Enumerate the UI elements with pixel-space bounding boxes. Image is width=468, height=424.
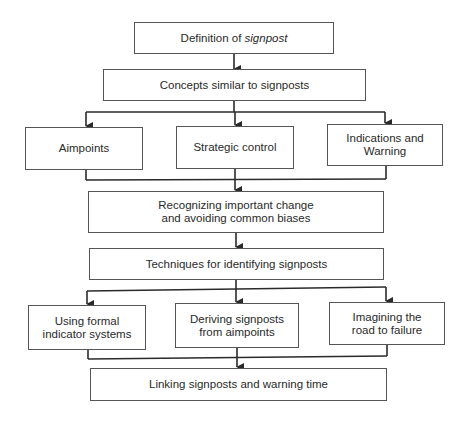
- node-definition-italic-term: signpost: [245, 32, 288, 44]
- node-concepts: Concepts similar to signposts: [103, 69, 366, 101]
- node-definition-text: Definition of signpost: [181, 32, 288, 45]
- node-formal-indicators: Using formal indicator systems: [28, 305, 146, 350]
- node-deriving-signposts-label: Deriving signposts from aimpoints: [190, 313, 284, 339]
- node-indications-warning: Indications and Warning: [327, 124, 443, 166]
- node-formal-indicators-label: Using formal indicator systems: [39, 315, 135, 341]
- node-concepts-label: Concepts similar to signposts: [160, 79, 310, 92]
- node-strategic-control-label: Strategic control: [193, 141, 276, 154]
- node-imagining-failure-label: Imagining the road to failure: [348, 311, 426, 337]
- node-definition-label: Definition of: [181, 32, 245, 44]
- node-aimpoints-label: Aimpoints: [59, 142, 110, 155]
- node-recognizing-change: Recognizing important change and avoidin…: [88, 191, 384, 233]
- node-indications-warning-label: Indications and Warning: [342, 132, 428, 158]
- node-recognizing-change-label: Recognizing important change and avoidin…: [149, 199, 323, 225]
- node-definition: Definition of signpost: [134, 22, 334, 54]
- node-deriving-signposts: Deriving signposts from aimpoints: [175, 303, 299, 348]
- connector-merge-1: [86, 179, 386, 180]
- node-linking-warning: Linking signposts and warning time: [90, 368, 387, 401]
- node-strategic-control: Strategic control: [176, 126, 294, 169]
- node-techniques: Techniques for identifying signposts: [89, 248, 384, 280]
- node-imagining-failure: Imagining the road to failure: [329, 302, 445, 345]
- node-linking-warning-label: Linking signposts and warning time: [149, 378, 328, 391]
- node-aimpoints: Aimpoints: [25, 127, 143, 170]
- node-techniques-label: Techniques for identifying signposts: [146, 258, 328, 271]
